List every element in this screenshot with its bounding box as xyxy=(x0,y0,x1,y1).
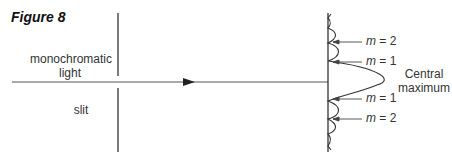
ray-arrow-icon xyxy=(183,78,195,86)
intensity-curve xyxy=(328,14,384,150)
diffraction-diagram xyxy=(0,0,452,158)
order-arrows xyxy=(333,40,362,121)
